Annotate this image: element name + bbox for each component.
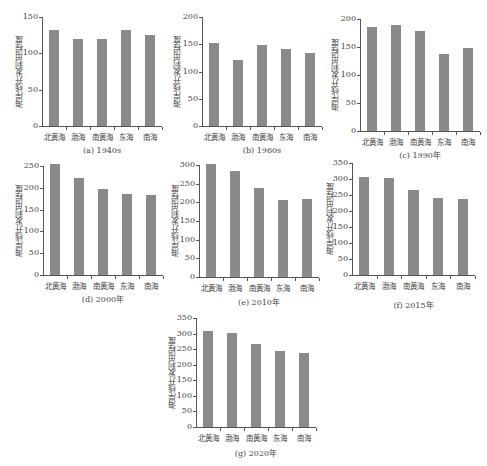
- y-tick-label: 0: [170, 423, 192, 431]
- y-tick-label: 200: [326, 207, 348, 215]
- y-tick-label: 0: [16, 122, 38, 130]
- y-tick: [349, 275, 352, 276]
- x-tick-label: 南海: [289, 432, 319, 443]
- x-tick: [401, 276, 402, 279]
- bar: [145, 35, 155, 126]
- x-tick-label: 南海: [448, 280, 478, 291]
- x-tick: [271, 278, 272, 281]
- bar: [257, 45, 267, 126]
- y-tick: [40, 188, 43, 189]
- y-tick: [193, 334, 196, 335]
- x-axis-line: [202, 126, 322, 127]
- x-axis-line: [42, 126, 162, 127]
- bar: [50, 164, 60, 275]
- x-tick: [316, 428, 317, 431]
- y-tick: [349, 195, 352, 196]
- y-tick: [196, 221, 199, 222]
- x-axis-line: [199, 277, 319, 278]
- y-tick-label: 250: [17, 162, 39, 170]
- bar: [305, 53, 315, 126]
- y-axis-line: [352, 163, 353, 275]
- y-tick: [349, 243, 352, 244]
- y-tick: [40, 166, 43, 167]
- x-tick: [226, 127, 227, 130]
- bar: [227, 333, 237, 427]
- x-tick: [456, 132, 457, 135]
- x-tick: [292, 428, 293, 431]
- y-tick-label: 300: [173, 161, 195, 169]
- y-tick-label: 250: [173, 180, 195, 188]
- y-tick: [196, 240, 199, 241]
- y-tick: [193, 380, 196, 381]
- bar: [299, 353, 309, 427]
- y-tick-label: 50: [334, 99, 356, 107]
- y-tick: [193, 411, 196, 412]
- bar: [302, 199, 312, 277]
- y-tick: [349, 259, 352, 260]
- y-tick-label: 50: [17, 249, 39, 257]
- bar: [206, 164, 216, 277]
- y-tick-label: 0: [17, 271, 39, 279]
- y-tick-label: 100: [170, 392, 192, 400]
- bar: [230, 171, 240, 277]
- bar: [73, 39, 83, 126]
- x-tick: [268, 428, 269, 431]
- x-tick: [426, 276, 427, 279]
- y-tick-label: 150: [17, 206, 39, 214]
- y-tick-label: 100: [173, 236, 195, 244]
- bar: [463, 48, 473, 131]
- bar: [203, 331, 213, 427]
- y-tick: [39, 126, 42, 127]
- y-tick: [193, 396, 196, 397]
- chart-caption: (e) 2010年: [199, 296, 319, 307]
- y-tick-label: 200: [173, 198, 195, 206]
- y-tick-label: 0: [326, 271, 348, 279]
- y-tick: [199, 99, 202, 100]
- x-tick: [432, 132, 433, 135]
- x-tick: [298, 127, 299, 130]
- y-axis-line: [199, 165, 200, 277]
- y-tick-label: 50: [176, 95, 198, 103]
- bar: [458, 199, 468, 275]
- y-axis-label: 海岸线开发利用程度: [14, 36, 25, 108]
- bar: [433, 198, 443, 275]
- x-tick: [220, 428, 221, 431]
- y-tick: [40, 253, 43, 254]
- x-tick: [475, 276, 476, 279]
- y-tick-label: 50: [326, 255, 348, 263]
- y-tick: [196, 184, 199, 185]
- y-tick: [357, 131, 360, 132]
- y-tick: [40, 210, 43, 211]
- chart-caption: (a) 1940s: [42, 146, 162, 155]
- y-tick: [40, 231, 43, 232]
- y-tick-label: 200: [176, 13, 198, 21]
- y-axis-line: [43, 166, 44, 275]
- x-tick: [67, 276, 68, 279]
- x-axis-line: [43, 275, 163, 276]
- chart-caption: (c) 1990年: [360, 149, 480, 160]
- x-tick: [295, 278, 296, 281]
- y-tick: [39, 53, 42, 54]
- bar: [278, 200, 288, 277]
- y-tick-label: 50: [173, 254, 195, 262]
- y-tick: [196, 165, 199, 166]
- y-tick: [193, 365, 196, 366]
- x-tick: [91, 276, 92, 279]
- y-tick: [40, 275, 43, 276]
- y-tick-label: 250: [326, 191, 348, 199]
- y-tick-label: 0: [176, 122, 198, 130]
- bar: [122, 194, 132, 275]
- y-tick-label: 0: [173, 273, 195, 281]
- y-tick: [199, 44, 202, 45]
- y-tick: [349, 211, 352, 212]
- x-tick: [114, 127, 115, 130]
- y-tick: [357, 75, 360, 76]
- bar: [359, 177, 369, 275]
- y-tick-label: 100: [176, 68, 198, 76]
- chart-caption: (b) 1960s: [202, 146, 322, 155]
- y-tick: [193, 318, 196, 319]
- chart-caption: (f) 2015年: [352, 299, 475, 310]
- y-tick-label: 50: [170, 407, 192, 415]
- x-tick: [480, 132, 481, 135]
- bar: [281, 49, 291, 126]
